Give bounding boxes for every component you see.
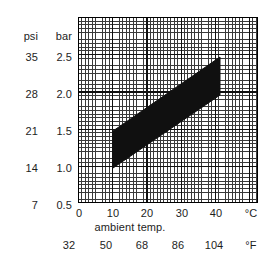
x-axis-fahrenheit-unit-label: °F [239, 239, 263, 251]
pressure-band-svg [78, 17, 258, 203]
x-axis-celsius-tick-20: 20 [136, 207, 158, 219]
x-axis-fahrenheit-tick-104: 104 [200, 239, 228, 251]
y-axis-bar-tick-1-0: 1.0 [44, 162, 72, 174]
x-axis-celsius-tick-10: 10 [102, 207, 124, 219]
x-axis-celsius-unit-label: °C [239, 207, 263, 219]
y-axis-bar-unit-label: bar [44, 30, 72, 42]
y-axis-psi-tick-14: 14 [10, 162, 38, 174]
x-axis-fahrenheit-tick-32: 32 [57, 239, 81, 251]
y-axis-bar-tick-1-5: 1.5 [44, 125, 72, 137]
y-axis-psi-unit-label: psi [10, 30, 38, 42]
pressure-band-layer [78, 17, 258, 203]
x-axis-fahrenheit-tick-50: 50 [94, 239, 118, 251]
x-axis-title: ambient temp. [80, 221, 180, 233]
x-axis-celsius-tick-40: 40 [205, 207, 227, 219]
y-axis-psi-tick-7: 7 [10, 199, 38, 211]
y-axis-psi-tick-35: 35 [10, 51, 38, 63]
y-axis-psi-tick-28: 28 [10, 88, 38, 100]
pressure-temperature-chart: psi 35 28 21 14 7 bar 2.5 2.0 1.5 1.0 0.… [0, 0, 276, 263]
pressure-band-polygon [113, 57, 220, 168]
y-axis-bar-tick-2-5: 2.5 [44, 51, 72, 63]
x-axis-fahrenheit-tick-68: 68 [130, 239, 154, 251]
x-axis-fahrenheit-tick-86: 86 [166, 239, 190, 251]
y-axis-psi-tick-21: 21 [10, 125, 38, 137]
x-axis-celsius-tick-0: 0 [68, 207, 90, 219]
x-axis-celsius-tick-30: 30 [171, 207, 193, 219]
y-axis-bar-tick-2-0: 2.0 [44, 88, 72, 100]
